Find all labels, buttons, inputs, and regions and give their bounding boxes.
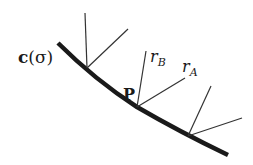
ray-pair-3 <box>188 86 242 136</box>
curve-label: c(σ) <box>18 47 53 67</box>
ray-label-ra: rA <box>182 57 198 79</box>
ray-b-1 <box>85 13 87 68</box>
ray-a-at-p <box>137 78 185 107</box>
ray-label-ra-sub: A <box>189 66 198 79</box>
point-label-p: P <box>123 85 135 104</box>
curve-label-c: c <box>18 47 28 67</box>
ray-b-3 <box>188 86 211 136</box>
ray-b-at-p <box>137 51 146 107</box>
ray-a-1 <box>87 29 128 68</box>
ray-pair-1 <box>85 13 128 68</box>
ray-a-3 <box>188 118 242 136</box>
ray-label-rb-sub: B <box>157 56 166 69</box>
curve-c-sigma <box>58 43 228 155</box>
ray-label-rb: rB <box>150 47 166 69</box>
curve-label-rest: (σ) <box>28 47 53 67</box>
curve-diagram: c(σ) P rB rA <box>0 0 253 165</box>
